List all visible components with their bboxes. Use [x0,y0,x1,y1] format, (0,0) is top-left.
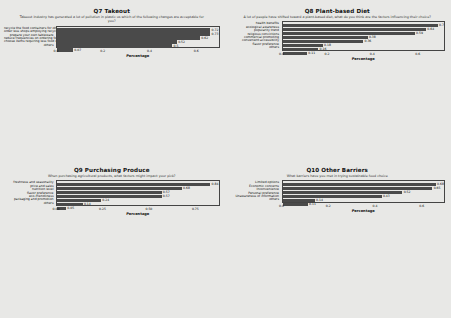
x-axis-tick-label: 0.6 [194,49,199,53]
x-axis-tick-label: 0.4 [372,204,377,208]
x-axis-ticks: 0.00.20.40.6 [56,48,220,55]
chart-panel-q7: Q7 Takeout Takeout industry has generate… [0,0,226,159]
x-axis-tick-label: 0.6 [419,204,424,208]
x-axis-tick-label: 0.4 [370,52,375,56]
plot-area: Limited optionsEconomic concernsInconven… [230,180,446,202]
y-axis-tick-label: others [4,44,56,47]
bar-series: 0.680.650.520.430.140.11 [283,181,445,201]
chart-subtitle: A lot of people have shifted toward a pl… [230,15,446,19]
chart-panel-q8: Q8 Plant-based Diet A lot of people have… [226,0,451,159]
x-axis-ticks: 0.00.20.40.6 [282,51,446,58]
axes: 0.840.680.570.570.240.140.05 [56,180,220,206]
x-axis-tick-label: 0.2 [326,204,331,208]
x-axis-tick-label: 0.0 [54,49,59,53]
x-axis-tick-label: 0.0 [279,52,284,56]
plot-area: freshness and seasonalityprice and sales… [4,180,220,206]
y-axis-labels: Limited optionsEconomic concernsInconven… [230,180,282,202]
chart-title: Q9 Purchasing Produce [4,167,220,173]
x-axis-tick-label: 0.50 [145,207,152,211]
x-axis-tick-label: 0.2 [100,49,105,53]
chart-subtitle: What barriers have you met in trying sus… [230,174,446,178]
x-axis-tick-label: 0.75 [192,207,199,211]
bar-series: 0.840.680.570.570.240.140.05 [57,181,219,205]
y-axis-tick-label: others [4,202,56,205]
x-axis-tick-label: 0.6 [415,52,420,56]
chart-subtitle: When purchasing agricultural products, w… [4,174,220,178]
axes: 0.70.640.590.380.360.180.160.11 [282,21,446,50]
chart-subtitle: Takeout industry has generated a lot of … [4,15,220,24]
chart-panel-q10: Q10 Other Barriers What barriers have yo… [226,159,451,318]
y-axis-labels: recycle the food containers for other st… [4,26,56,48]
y-axis-tick-label: others [230,46,282,49]
y-axis-labels: freshness and seasonalityprice and sales… [4,180,56,206]
y-axis-labels: health benefitsecological awarenesspopul… [230,21,282,50]
chart-title: Q7 Takeout [4,8,220,14]
x-axis-ticks: 0.000.250.500.75 [56,206,220,213]
chart-panel-q9: Q9 Purchasing Produce When purchasing ag… [0,159,226,318]
axes: 0.720.730.620.520.50.07 [56,26,220,48]
plot-area: recycle the food containers for other st… [4,26,220,48]
x-axis-tick-label: 0.4 [147,49,152,53]
bar-series: 0.720.730.620.520.50.07 [57,27,219,47]
x-axis-tick-label: 0.25 [99,207,106,211]
bar-series: 0.70.640.590.380.360.180.160.11 [283,22,445,49]
axes: 0.680.650.520.430.140.11 [282,180,446,202]
x-axis-tick-label: 0.0 [279,204,284,208]
x-axis-tick-label: 0.2 [324,52,329,56]
chart-grid: Q7 Takeout Takeout industry has generate… [0,0,451,318]
x-axis-tick-label: 0.00 [53,207,60,211]
y-axis-tick-label: others [230,198,282,201]
chart-title: Q10 Other Barriers [230,167,446,173]
plot-area: health benefitsecological awarenesspopul… [230,21,446,50]
chart-title: Q8 Plant-based Diet [230,8,446,14]
x-axis-ticks: 0.00.20.40.6 [282,203,446,210]
